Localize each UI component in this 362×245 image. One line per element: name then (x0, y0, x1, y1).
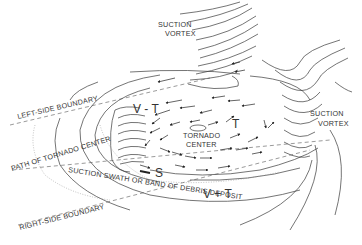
top-suction-vortex-lines (180, 2, 258, 89)
svg-text:SUCTION: SUCTION (158, 20, 192, 29)
path-of-tornado-center-label: PATH OF TORNADO CENTER (10, 134, 112, 173)
tornado-center-label: TORNADO CENTER (183, 131, 220, 149)
tornado-suction-vortex-diagram: SUCTION VORTEX SUCTION VORTEX LEFT-SIDE … (0, 0, 362, 245)
s-marker-label: S (155, 166, 163, 180)
suction-vortex-right-label: SUCTION VORTEX (310, 109, 349, 128)
left-side-boundary-line (10, 78, 210, 125)
right-side-boundary-label: RIGHT-SIDE BOUNDARY (18, 202, 105, 232)
svg-text:VORTEX: VORTEX (318, 119, 349, 128)
t-marker-label: T (232, 117, 240, 131)
svg-text:CENTER: CENTER (186, 140, 217, 149)
svg-text:VORTEX: VORTEX (165, 29, 196, 38)
s-marker-stroke (140, 171, 150, 173)
suction-vortex-top-label: SUCTION VORTEX (158, 20, 196, 38)
inner-rim (150, 148, 318, 175)
right-suction-vortex-lines (240, 40, 352, 230)
svg-text:TORNADO: TORNADO (183, 131, 220, 140)
diagram-canvas: SUCTION VORTEX SUCTION VORTEX LEFT-SIDE … (0, 0, 362, 245)
v-plus-t-label: V + T (203, 187, 232, 201)
svg-text:SUCTION: SUCTION (310, 109, 344, 118)
left-vortex-lines (111, 107, 146, 172)
v-minus-t-label: V - T (133, 102, 159, 116)
